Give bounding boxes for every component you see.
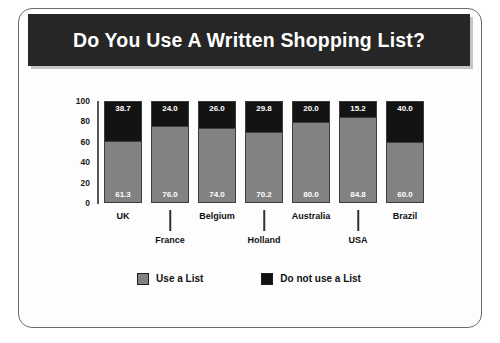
bar-value-label: 84.8 (350, 191, 366, 199)
legend-label-text: Do not use a List (280, 274, 361, 284)
category-label-text: Holland (248, 236, 281, 245)
bar-value-label: 40.0 (397, 105, 413, 113)
chart-page: Do You Use A Written Shopping List? 0204… (0, 0, 500, 343)
category-leader-line (169, 210, 171, 231)
category-label-belgium: Belgium (198, 207, 236, 251)
y-axis-tick-80: 80 (81, 117, 90, 126)
page-title: Do You Use A Written Shopping List? (28, 14, 470, 66)
bar-value-label: 76.0 (162, 191, 178, 199)
category-label-text: Brazil (393, 212, 418, 221)
bar-segment-do-not-use-a-list: 15.2 (340, 102, 376, 117)
bar-holland[interactable]: 29.870.2 (245, 101, 283, 203)
bar-value-label: 24.0 (162, 105, 178, 113)
category-label-usa: USA (339, 207, 377, 251)
bar-value-label: 38.7 (115, 105, 131, 113)
bar-value-label: 74.0 (209, 191, 225, 199)
legend-swatch-icon (261, 273, 273, 285)
legend-item-use-a-list[interactable]: Use a List (137, 273, 203, 285)
bar-value-label: 29.8 (256, 105, 272, 113)
bar-segment-use-a-list: 80.0 (293, 122, 329, 202)
legend-label-text: Use a List (156, 274, 203, 284)
title-banner: Do You Use A Written Shopping List? (28, 14, 470, 66)
x-axis-category-labels: UKFranceBelgiumHollandAustraliaUSABrazil (104, 207, 434, 251)
y-axis-tick-100: 100 (76, 97, 90, 106)
legend-swatch-icon (137, 273, 149, 285)
bar-segment-do-not-use-a-list: 26.0 (199, 102, 235, 128)
bar-segment-do-not-use-a-list: 20.0 (293, 102, 329, 122)
bar-value-label: 15.2 (350, 105, 366, 113)
bar-segment-use-a-list: 76.0 (152, 126, 188, 202)
bar-segment-use-a-list: 74.0 (199, 128, 235, 202)
bar-value-label: 80.0 (303, 191, 319, 199)
bar-segment-use-a-list: 84.8 (340, 117, 376, 202)
bar-segment-use-a-list: 60.0 (387, 142, 423, 202)
category-label-text: USA (348, 236, 367, 245)
category-label-text: Australia (292, 212, 331, 221)
bar-segment-do-not-use-a-list: 24.0 (152, 102, 188, 126)
category-leader-line (263, 210, 265, 231)
bars-container: 38.761.324.076.026.074.029.870.220.080.0… (104, 101, 434, 203)
bar-australia[interactable]: 20.080.0 (292, 101, 330, 203)
category-label-uk: UK (104, 207, 142, 251)
category-label-holland: Holland (245, 207, 283, 251)
bar-segment-do-not-use-a-list: 29.8 (246, 102, 282, 132)
y-axis-tick-0: 0 (85, 199, 90, 208)
category-label-france: France (151, 207, 189, 251)
category-label-text: Belgium (199, 212, 235, 221)
bar-segment-use-a-list: 70.2 (246, 132, 282, 202)
bar-value-label: 26.0 (209, 105, 225, 113)
bar-france[interactable]: 24.076.0 (151, 101, 189, 203)
y-axis-tick-60: 60 (81, 138, 90, 147)
bar-value-label: 70.2 (256, 191, 272, 199)
bar-segment-do-not-use-a-list: 40.0 (387, 102, 423, 142)
bar-value-label: 60.0 (397, 191, 413, 199)
category-leader-line (357, 210, 359, 231)
bar-segment-use-a-list: 61.3 (105, 141, 141, 202)
y-axis-tick-20: 20 (81, 178, 90, 187)
y-axis-line (97, 101, 99, 204)
bar-usa[interactable]: 15.284.8 (339, 101, 377, 203)
bar-value-label: 61.3 (115, 191, 131, 199)
bar-brazil[interactable]: 40.060.0 (386, 101, 424, 203)
y-axis-tick-40: 40 (81, 158, 90, 167)
category-label-australia: Australia (292, 207, 330, 251)
chart-legend: Use a ListDo not use a List (28, 268, 470, 290)
category-label-text: France (155, 236, 185, 245)
bar-uk[interactable]: 38.761.3 (104, 101, 142, 203)
legend-item-do-not-use-a-list[interactable]: Do not use a List (261, 273, 361, 285)
category-label-text: UK (117, 212, 130, 221)
bar-value-label: 20.0 (303, 105, 319, 113)
bar-belgium[interactable]: 26.074.0 (198, 101, 236, 203)
bar-segment-do-not-use-a-list: 38.7 (105, 102, 141, 141)
category-label-brazil: Brazil (386, 207, 424, 251)
plot-area: 020406080100 38.761.324.076.026.074.029.… (28, 92, 470, 222)
y-axis-tick-labels: 020406080100 (54, 101, 90, 203)
